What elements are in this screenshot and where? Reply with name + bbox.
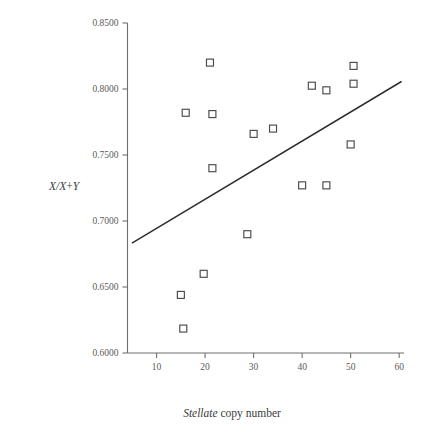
x-axis-tick-label: 30 <box>249 362 259 372</box>
y-axis-tick-label: 0.6000 <box>92 348 118 358</box>
data-point-marker <box>323 87 330 94</box>
data-point-marker <box>206 59 213 66</box>
data-point-marker <box>177 291 184 298</box>
data-point-marker <box>350 80 357 87</box>
x-axis-tick-label: 60 <box>394 362 404 372</box>
x-axis-tick-label: 40 <box>297 362 307 372</box>
y-axis-title: X/X+Y <box>48 180 81 192</box>
x-axis-title: Stellate copy number <box>183 407 281 420</box>
y-axis-tick-label: 0.6500 <box>92 282 118 292</box>
x-axis-tick-label: 10 <box>152 362 162 372</box>
data-point-marker <box>209 165 216 172</box>
y-axis-tick-label: 0.7500 <box>92 150 118 160</box>
x-axis-tick-label: 50 <box>346 362 356 372</box>
data-point-marker <box>350 62 357 69</box>
x-axis-tick-label: 20 <box>200 362 210 372</box>
data-point-marker <box>308 82 315 89</box>
y-axis-tick-label: 0.8000 <box>92 84 118 94</box>
data-point-marker <box>182 109 189 116</box>
data-point-marker <box>200 270 207 277</box>
data-point-marker <box>270 125 277 132</box>
regression-trend-line <box>132 82 401 243</box>
y-axis-tick-group: 0.60000.65000.70000.75000.80000.8500 <box>92 18 127 358</box>
y-axis-tick-label: 0.7000 <box>92 216 118 226</box>
data-point-marker <box>299 182 306 189</box>
data-point-marker <box>180 325 187 332</box>
data-point-marker <box>250 130 257 137</box>
data-point-marker <box>244 231 251 238</box>
data-point-marker <box>347 141 354 148</box>
data-point-group <box>177 59 357 332</box>
x-axis-tick-group: 102030405060 <box>152 353 404 372</box>
y-axis-tick-label: 0.8500 <box>92 18 118 28</box>
data-point-marker <box>323 182 330 189</box>
plot-canvas: 0.60000.65000.70000.75000.80000.8500 102… <box>0 0 429 440</box>
data-point-marker <box>209 111 216 118</box>
scatter-plot-figure: 0.60000.65000.70000.75000.80000.8500 102… <box>0 0 429 440</box>
